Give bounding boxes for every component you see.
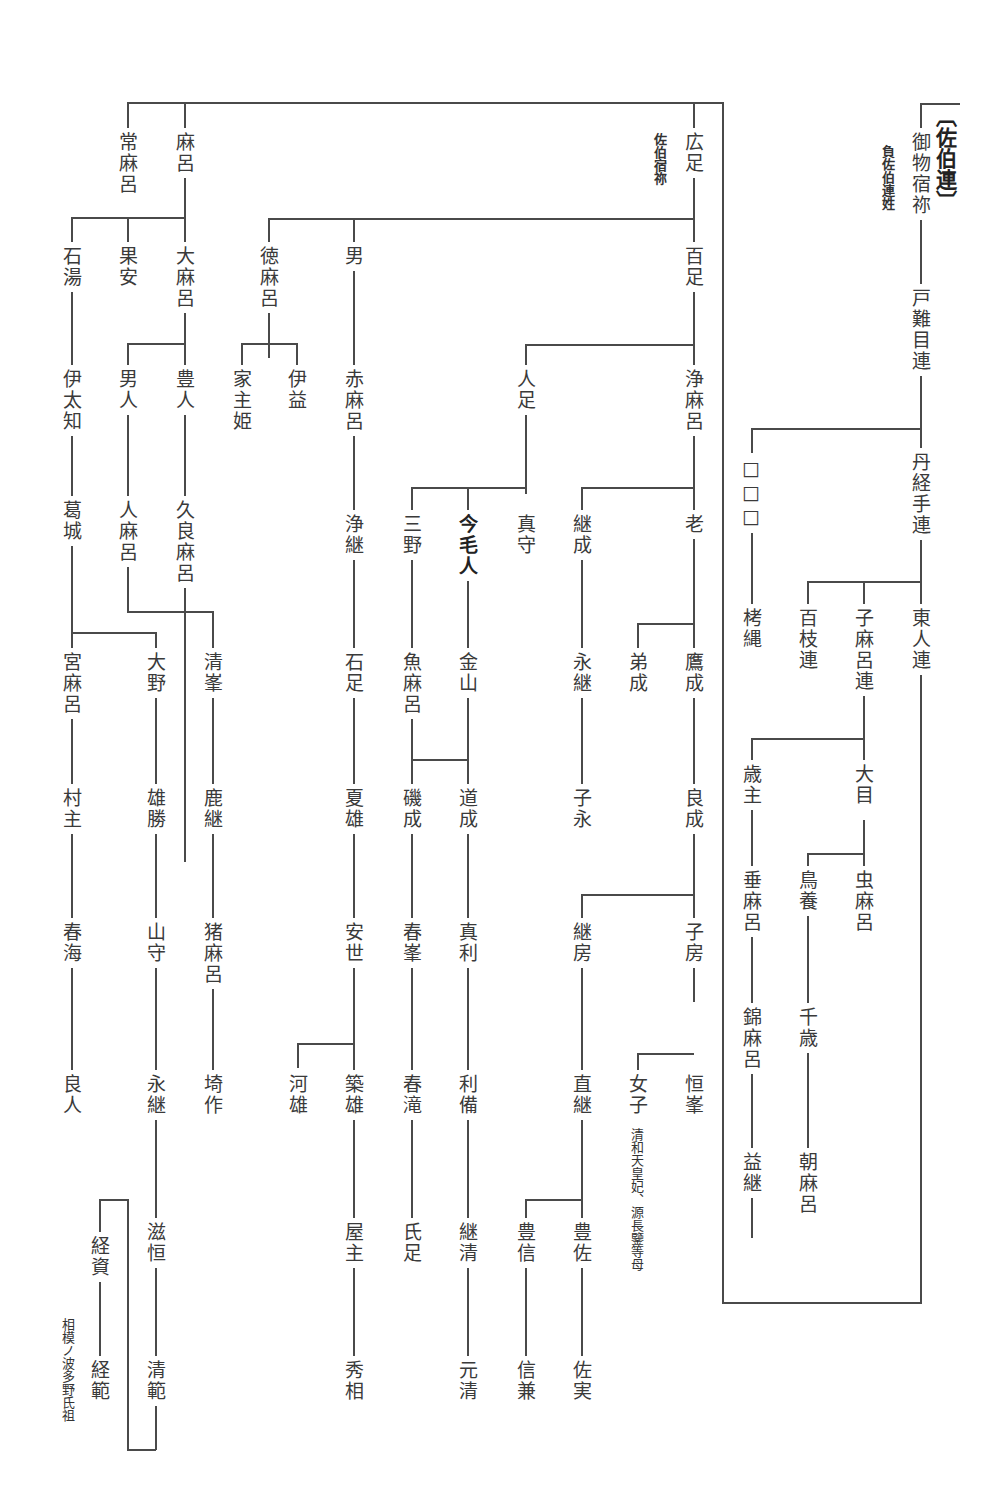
connector [525, 1199, 582, 1201]
saeki-genealogy-chart: 〔佐伯連〕 負佐伯連姓 佐伯宿祢 清和天皇妃、源長鑒等母 相模ノ波多野氏祖 御物… [0, 0, 993, 1486]
node-murashi: 村主 [60, 784, 82, 834]
clan-heading: 〔佐伯連〕 [933, 106, 957, 211]
node-nobukane: 信兼 [514, 1356, 536, 1406]
node-kiyonori: 清範 [144, 1356, 166, 1406]
node-otohito: 男人 [116, 365, 138, 415]
node-isonari: 磯成 [400, 784, 422, 834]
node-asamaro: 朝麻呂 [796, 1148, 818, 1219]
connector [411, 487, 413, 1237]
connector [807, 853, 864, 855]
node-nyoshi: 女子 [626, 1070, 648, 1120]
node-takanari: 鷹成 [682, 648, 704, 698]
node-tsugufusa: 継房 [570, 918, 592, 968]
node-konaga: 子永 [570, 784, 592, 834]
connector [297, 1043, 299, 1068]
node-kunawa: 栲縄 [740, 604, 762, 654]
node-naotsugu: 直継 [570, 1070, 592, 1120]
node-tsunenori: 経範 [88, 1356, 110, 1406]
connector [722, 1302, 922, 1304]
node-motokiyo: 元清 [456, 1356, 478, 1406]
node-yanushi: 屋主 [342, 1218, 364, 1268]
node-mino: 三野 [400, 510, 422, 560]
node-kiyomine: 清峯 [201, 648, 223, 698]
connector [581, 894, 694, 896]
node-kawao: 河雄 [286, 1070, 308, 1120]
connector [637, 1053, 694, 1055]
node-kofusa: 子房 [682, 918, 704, 968]
node-tokumaro: 徳麻呂 [257, 242, 279, 313]
node-michinari: 道成 [456, 784, 478, 834]
node-yamamori: 山守 [144, 918, 166, 968]
node-kanayama: 金山 [456, 648, 478, 698]
node-ujitari: 氏足 [400, 1218, 422, 1268]
connector [241, 343, 297, 345]
node-okatsu: 雄勝 [144, 784, 166, 834]
node-akamaro: 赤麻呂 [342, 365, 364, 436]
node-maro: 麻呂 [173, 128, 195, 178]
node-iwatari: 石足 [342, 648, 364, 698]
connector [127, 1199, 129, 1450]
connector [297, 1043, 354, 1045]
node-harumi: 春海 [60, 918, 82, 968]
node-toshinushi: 歳主 [740, 760, 762, 810]
connector [99, 1199, 128, 1201]
node-nifutemuraji: 丹経手連 [909, 448, 931, 540]
node-kayasu: 果安 [116, 242, 138, 292]
node-hidesuke: 秀相 [342, 1356, 364, 1406]
connector [693, 102, 695, 1002]
connector [722, 102, 724, 1303]
connector [920, 103, 922, 1303]
node-imaemishi: 今毛人 [456, 510, 478, 581]
node-hyakushi: 百枝連 [796, 604, 818, 675]
node-tsunesuke: 経資 [88, 1232, 110, 1282]
node-torikai: 鳥養 [796, 866, 818, 916]
node-otonari: 弟成 [626, 648, 648, 698]
node-nagatsugu2: 永継 [144, 1070, 166, 1120]
node-mitsumori: 真守 [514, 510, 536, 560]
connector [637, 623, 694, 625]
node-yoshinari: 良成 [682, 784, 704, 834]
nyoshi-note: 清和天皇妃、源長鑒等母 [630, 1128, 645, 1271]
node-momotari: 百足 [682, 242, 704, 292]
node-masatoshi: 真利 [456, 918, 478, 968]
node-imaro: 猪麻呂 [201, 918, 223, 989]
node-tsukio: 築雄 [342, 1070, 364, 1120]
node-shikatsugu: 鹿継 [201, 784, 223, 834]
node-masutsugu: 益継 [740, 1148, 762, 1198]
node-harumine: 春峯 [400, 918, 422, 968]
node-uomaro: 魚麻呂 [400, 648, 422, 719]
node-oono: 大野 [144, 648, 166, 698]
node-miyamaro: 宮麻呂 [60, 648, 82, 719]
node-kiyomaro: 浄麻呂 [682, 365, 704, 436]
node-sakitsukuri: 埼作 [201, 1070, 223, 1120]
node-shigetsune: 滋恒 [144, 1218, 166, 1268]
node-toyosuke: 豊佐 [570, 1218, 592, 1268]
node-toyohito: 豊人 [173, 365, 195, 415]
node-oi: 老 [682, 510, 704, 539]
connector [581, 487, 694, 489]
node-hirotari: 広足 [682, 128, 704, 178]
node-natsuo: 夏雄 [342, 784, 364, 834]
connector [71, 632, 157, 634]
connector [127, 102, 723, 104]
node-tsugunari: 継成 [570, 510, 592, 560]
node-toshinari: 利備 [456, 1070, 478, 1120]
node-unknown: □□□ [740, 453, 762, 533]
node-mushimaro: 虫麻呂 [852, 866, 874, 937]
node-mimono-sukune: 御物宿祢 [909, 128, 931, 220]
node-ieyosihime: 家主姫 [230, 365, 252, 436]
kabane-note: 負佐伯連姓 [881, 145, 896, 210]
node-hitomaro: 人麻呂 [116, 496, 138, 567]
connector [127, 611, 213, 613]
node-otoko: 男 [342, 242, 364, 271]
tsunenori-note: 相模ノ波多野氏祖 [61, 1318, 76, 1422]
node-itachi: 伊太知 [60, 365, 82, 436]
connector [751, 738, 864, 740]
node-oome: 大目 [852, 760, 874, 810]
node-nishikimaro: 錦麻呂 [740, 1003, 762, 1074]
node-tsunemaro: 常麻呂 [116, 128, 138, 199]
hirotari-note: 佐伯宿祢 [653, 133, 668, 185]
connector [127, 343, 185, 345]
node-kiyotsugu: 浄継 [342, 510, 364, 560]
connector [525, 344, 694, 346]
